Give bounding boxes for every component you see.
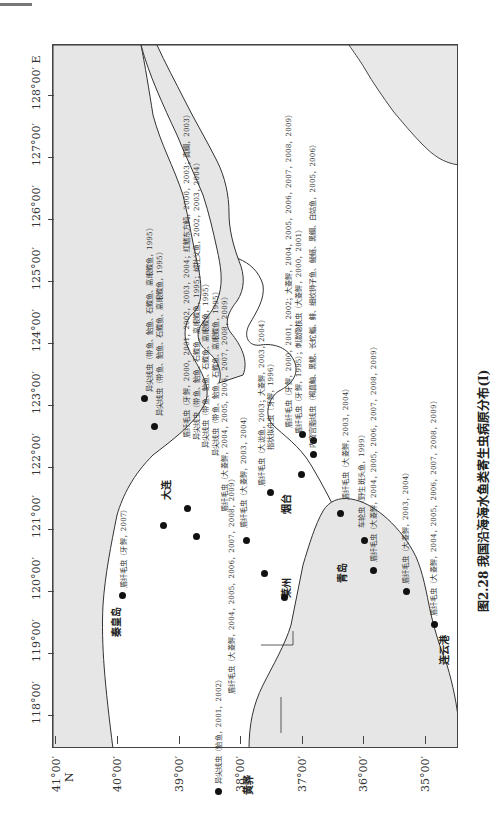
site-marker[interactable] [151,423,158,430]
lon-tick [48,157,54,158]
lat-label-35: 35°00′ [419,756,432,792]
record-label: 指状拟舟虫（牙鲆，1996） [265,360,275,450]
lon-tick [48,591,54,592]
lon-label-128: 128°00′ E [30,55,43,110]
lon-label-125: 125°00′ [30,247,43,290]
lat-tick [302,736,303,744]
lon-label-124: 124°00′ [30,309,43,352]
record-label: 盾纤毛虫（牙鲆，1995）；刺激隐核虫（大菱鲆，2000，2001） [293,226,303,434]
lon-tick [48,467,54,468]
site-marker[interactable] [141,395,148,402]
lat-unit-label: N [63,772,76,782]
place-lianyungang: 连云港 [436,635,451,665]
site-marker[interactable] [370,567,377,574]
record-label: 盾纤毛虫（大菱鲆，2003，2004） [238,413,248,528]
site-marker[interactable] [281,594,288,601]
page-corner-mark [0,3,32,6]
lat-tick [179,736,180,744]
lat-tick [55,736,56,744]
lon-label-120: 120°00′ [30,557,43,600]
site-marker[interactable] [243,537,250,544]
lon-tick [48,653,54,654]
lon-label-118: 118°00′ [30,681,43,724]
site-marker[interactable] [193,533,200,540]
record-label: 异尖线虫（带鱼、鲐鱼、石鲽鱼、高眼鲽鱼，1995） [154,248,164,416]
lon-label-123: 123°00′ [30,371,43,414]
place-dalian: 大连 [158,480,173,500]
site-marker[interactable] [119,592,126,599]
record-label: 车轮虫（野生斑头鱼，1999） [356,431,366,528]
record-label: 盾纤毛虫（牙鲆，2007） [118,505,128,588]
record-label: 盾纤毛虫（大菱鲆，2003，2004） [400,469,410,584]
lat-tick [363,736,364,744]
lon-label-119: 119°00′ [30,619,43,662]
lat-label-40: 40°00′ [111,756,124,792]
lon-tick [48,715,54,716]
record-label: 异尖线虫（带鱼、鲐鱼、石鲽鱼、高眼鲽鱼，1995） [200,280,210,448]
site-marker[interactable] [160,522,167,529]
record-label: 盾纤毛虫（牙鲆，2000，2001，2002；大菱鲆，2004，2005，200… [283,111,293,428]
site-marker[interactable] [184,505,191,512]
lon-tick [48,219,54,220]
lat-label-36: 36°00′ [357,756,370,792]
lat-label-37: 37°00′ [296,756,309,792]
place-qingdao: 青岛 [334,563,349,583]
lat-label-41: 41°00′ [50,756,63,792]
site-marker[interactable] [431,621,438,628]
site-marker[interactable] [215,788,222,795]
map-frame [52,44,458,748]
record-label: 异尖线虫（鲐鱼，2001，2002） [213,676,223,784]
site-marker[interactable] [267,489,274,496]
lat-label-39: 39°00′ [173,756,186,792]
lon-label-127: 127°00′ [30,123,43,166]
site-marker[interactable] [403,588,410,595]
lon-label-122: 122°00′ [30,433,43,476]
record-label: 异尖线虫（带鱼、鲐鱼、石鲽鱼、高眼鲽鱼，1995） [144,224,154,392]
site-marker[interactable] [337,510,344,517]
record-label: 盾纤毛虫（大菱鲆，2004，2005，2006，2007，2008，2009） [226,475,236,694]
lon-label-121: 121°00′ [30,495,43,538]
lon-tick [48,95,54,96]
place-yantai: 烟台 [278,494,293,514]
lon-tick [48,343,54,344]
figure-caption: 图2.28 我国沿海海水鱼类寄生虫病原分布(I) [474,370,491,612]
site-marker[interactable] [298,471,305,478]
lon-tick [48,281,54,282]
lat-tick [425,736,426,744]
lon-tick [48,405,54,406]
record-label: 盾纤毛虫（大菱鲆，2004，2005，2006，2007，2008，2009） [368,343,378,562]
lon-tick [48,529,54,530]
place-qinhuangdao: 秦皇岛 [108,607,123,637]
record-label: 内弯宫脂线虫（褐菖鲉、黑鲪、长蛇鲻、鲱、细纹狮子鱼、鲮鲢、黑鲷、白姑鱼，2005… [307,141,317,448]
record-label: 盾纤毛虫（大菱鲆，2003，2004） [340,385,350,500]
lat-tick [117,736,118,744]
lat-tick [240,736,241,744]
site-marker[interactable] [261,570,268,577]
place-huanghua: 黄骅 [240,775,255,795]
lon-label-126: 126°00′ [30,185,43,228]
record-label: 盾纤毛虫（牙鲆，2000，2001，2002，2003，2004；红鳍东方鲀，2… [181,111,191,438]
site-marker[interactable] [361,537,368,544]
record-label: 盾纤毛虫（大菱鲆，2004，2005，2006，2007，2008，2009） [428,397,438,616]
site-marker[interactable] [310,451,317,458]
